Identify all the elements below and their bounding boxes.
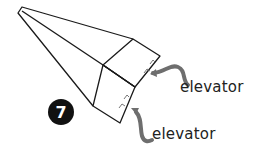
step-number-badge: 7	[48, 99, 74, 125]
airplane-body-outline	[18, 7, 133, 106]
lower-cut-mark	[119, 104, 125, 108]
lower-elevator-arrow	[136, 112, 152, 141]
lower-wing-panel	[93, 65, 135, 123]
airplane-outline	[18, 7, 160, 123]
upper-elevator-label: elevator	[180, 80, 244, 95]
lower-cut-mark	[124, 95, 129, 99]
step-number: 7	[55, 103, 66, 122]
lower-elevator-label: elevator	[152, 127, 216, 142]
upper-wing-panel	[103, 39, 160, 87]
